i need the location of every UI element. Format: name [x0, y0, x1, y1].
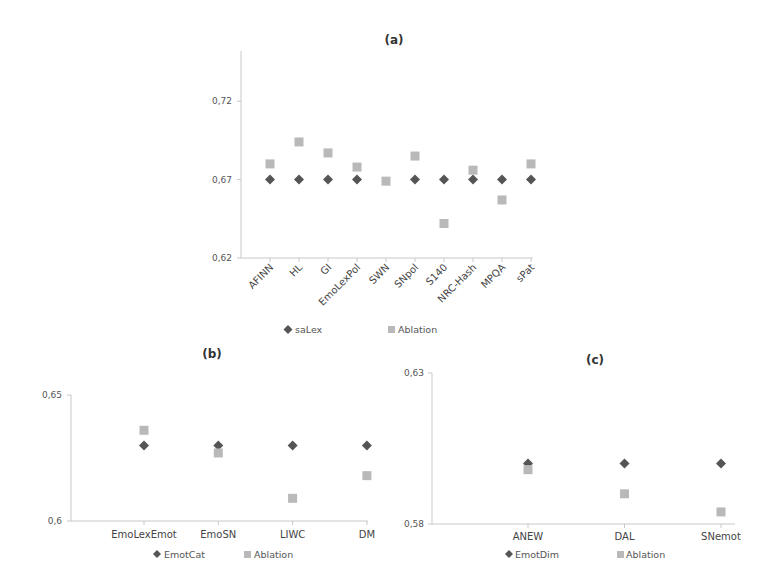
square-marker-icon [411, 152, 420, 161]
square-marker-icon [214, 448, 223, 457]
legend-label-salex: saLex [295, 324, 323, 335]
diamond-marker-icon [294, 175, 304, 185]
x-category-label: DM [359, 529, 375, 540]
x-category-label: LIWC [280, 529, 305, 540]
legend-c: EmotDim Ablation [505, 549, 665, 560]
diamond-marker-icon [265, 175, 275, 185]
square-legend-icon [244, 551, 251, 558]
chart-panel-c: (c) 0,580,63ANEWDALSNemot EmotDim Ablati… [404, 353, 741, 560]
diamond-marker-icon [323, 175, 333, 185]
y-tick-label: 0,65 [42, 390, 62, 400]
y-tick-label: 0,63 [404, 368, 424, 378]
diamond-marker-icon [139, 440, 149, 450]
x-category-label: EmoLexEmot [111, 529, 177, 540]
diamond-marker-icon [620, 459, 630, 469]
square-marker-icon [295, 137, 304, 146]
x-category-label: sPat [514, 262, 537, 285]
chart-panel-a: (a) 0,620,670,72AFINNHLGIEmoLexPolSWNSNp… [212, 33, 537, 335]
square-marker-icon [527, 159, 536, 168]
plot-area-b: 0,60,65EmoLexEmotEmoSNLIWCDM [42, 390, 375, 540]
legend-label-ablation: Ablation [398, 324, 437, 335]
legend-label-ablation: Ablation [626, 549, 665, 560]
square-marker-icon [324, 148, 333, 157]
diamond-marker-icon [352, 175, 362, 185]
diamond-marker-icon [526, 175, 536, 185]
x-category-label: ANEW [513, 531, 544, 542]
x-category-label: AFINN [246, 262, 275, 291]
y-tick-label: 0,58 [404, 519, 424, 529]
y-tick-label: 0,72 [212, 96, 232, 106]
x-category-label: SWN [367, 262, 392, 287]
x-category-label: MPQA [479, 262, 508, 291]
square-marker-icon [353, 163, 362, 172]
square-marker-icon [266, 159, 275, 168]
y-tick-label: 0,6 [48, 516, 63, 526]
square-marker-icon [440, 219, 449, 228]
square-marker-icon [362, 471, 371, 480]
plot-area-c: 0,580,63ANEWDALSNemot [404, 368, 741, 542]
square-marker-icon [469, 166, 478, 175]
diamond-marker-icon [497, 175, 507, 185]
x-category-label: SNpol [392, 262, 420, 290]
square-marker-icon [524, 465, 533, 474]
x-category-label: EmoSN [200, 529, 236, 540]
chart-title-c: (c) [586, 353, 604, 367]
square-legend-icon [388, 326, 395, 333]
square-marker-icon [288, 494, 297, 503]
x-category-label: GI [318, 262, 333, 277]
chart-panel-b: (b) 0,60,65EmoLexEmotEmoSNLIWCDM EmotCat… [42, 347, 375, 560]
legend-label-ablation: Ablation [254, 549, 293, 560]
legend-label-emotcat: EmotCat [164, 549, 205, 560]
diamond-marker-icon [439, 175, 449, 185]
y-tick-label: 0,67 [212, 175, 232, 185]
figure-canvas: (a) 0,620,670,72AFINNHLGIEmoLexPolSWNSNp… [0, 0, 784, 583]
x-category-label: SNemot [701, 531, 741, 542]
square-marker-icon [717, 507, 726, 516]
square-marker-icon [382, 177, 391, 186]
diamond-marker-icon [362, 440, 372, 450]
legend-a: saLex Ablation [284, 324, 438, 335]
diamond-legend-icon [153, 550, 161, 558]
square-marker-icon [140, 426, 149, 435]
chart-title-a: (a) [384, 33, 403, 47]
y-tick-label: 0,62 [212, 253, 232, 263]
legend-b: EmotCat Ablation [153, 549, 293, 560]
legend-label-emotdim: EmotDim [515, 549, 559, 560]
x-category-label: S140 [424, 262, 450, 288]
diamond-marker-icon [288, 440, 298, 450]
square-marker-icon [620, 489, 629, 498]
diamond-marker-icon [410, 175, 420, 185]
x-category-label: DAL [615, 531, 635, 542]
plot-area-a: 0,620,670,72AFINNHLGIEmoLexPolSWNSNpolS1… [212, 51, 537, 308]
diamond-marker-icon [468, 175, 478, 185]
chart-title-b: (b) [202, 347, 222, 361]
diamond-legend-icon [505, 550, 513, 558]
diamond-marker-icon [716, 459, 726, 469]
x-category-label: HL [287, 261, 304, 278]
diamond-legend-icon [284, 325, 293, 334]
square-marker-icon [498, 195, 507, 204]
square-legend-icon [617, 551, 624, 558]
